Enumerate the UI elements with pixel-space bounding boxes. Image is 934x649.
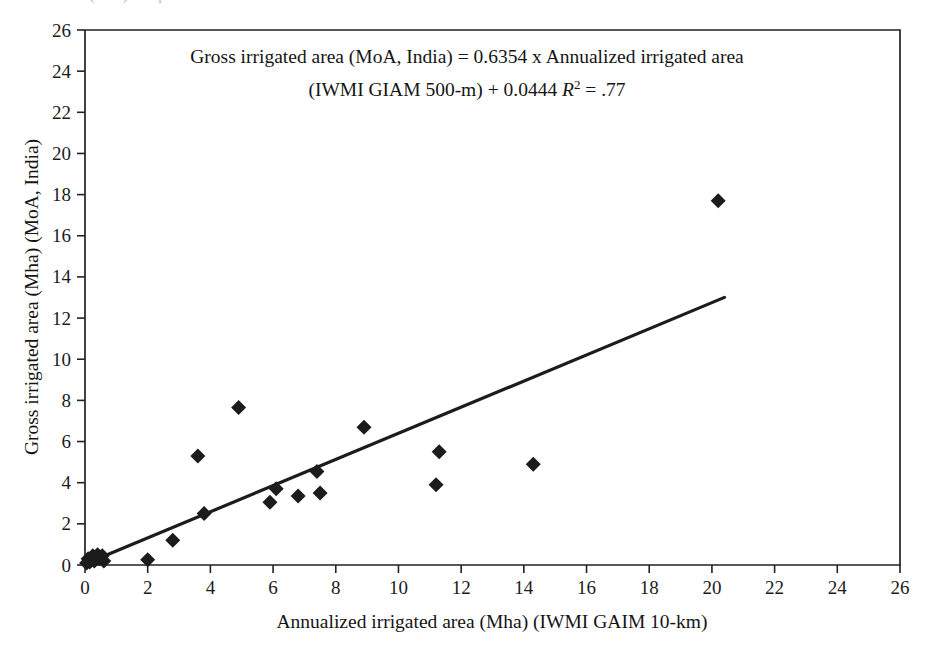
x-tick-label: 0 (80, 577, 90, 598)
data-point-marker (711, 193, 726, 208)
x-tick-label: 20 (702, 577, 721, 598)
x-axis-title: Annualized irrigated area (Mha) (IWMI GA… (277, 611, 708, 633)
x-tick-label: 22 (765, 577, 784, 598)
data-point-marker (356, 420, 371, 435)
y-axis-title: Gross irrigated area (Mha) (MoA, India) (21, 139, 43, 455)
y-axis-ticks: 02468101214161820222426 (52, 20, 85, 576)
plot-frame (85, 30, 900, 565)
y-tick-label: 8 (62, 390, 72, 411)
y-tick-label: 4 (62, 472, 72, 493)
data-points (79, 193, 726, 570)
equation-line-2-pre: (IWMI GIAM 500-m) + 0.0444 (308, 79, 562, 101)
equation-line-2: (IWMI GIAM 500-m) + 0.0444 R2 = .77 (308, 77, 625, 102)
x-tick-label: 6 (268, 577, 278, 598)
x-axis-ticks: 02468101214161820222426 (80, 565, 909, 598)
y-tick-label: 16 (52, 225, 71, 246)
x-tick-label: 14 (514, 577, 534, 598)
data-point-marker (231, 400, 246, 415)
x-tick-label: 8 (331, 577, 341, 598)
x-tick-label: 4 (206, 577, 216, 598)
equation-line-2-post: = .77 (580, 79, 625, 100)
data-point-marker (313, 485, 328, 500)
data-point-marker (429, 477, 444, 492)
data-point-marker (190, 448, 205, 463)
y-tick-label: 24 (52, 61, 72, 82)
x-tick-label: 18 (640, 577, 659, 598)
equation-r-symbol: R (561, 79, 574, 100)
x-tick-label: 2 (143, 577, 153, 598)
equation-line-1: Gross irrigated area (MoA, India) = 0.63… (190, 46, 744, 68)
x-tick-label: 26 (891, 577, 910, 598)
data-point-marker (526, 457, 541, 472)
data-point-marker (262, 495, 277, 510)
data-point-marker (291, 489, 306, 504)
trend-line (85, 297, 724, 564)
x-tick-label: 24 (828, 577, 848, 598)
regression-line (85, 297, 724, 564)
x-tick-label: 10 (389, 577, 408, 598)
x-tick-label: 16 (577, 577, 596, 598)
chart-canvas: Gross irrigated area (MoA, India) = 0.63… (0, 0, 934, 649)
y-tick-label: 18 (52, 184, 71, 205)
y-tick-label: 10 (52, 349, 71, 370)
y-tick-label: 26 (52, 20, 71, 41)
y-tick-label: 20 (52, 143, 71, 164)
equation-annotation: Gross irrigated area (MoA, India) = 0.63… (190, 46, 744, 101)
data-point-marker (165, 533, 180, 548)
y-tick-label: 12 (52, 308, 71, 329)
data-point-marker (197, 506, 212, 521)
y-tick-label: 0 (62, 555, 72, 576)
y-tick-label: 6 (62, 431, 72, 452)
y-tick-label: 14 (52, 266, 72, 287)
scatter-plot-figure: ated area (Mha) comparison Gross irrigat… (0, 0, 934, 649)
x-tick-label: 12 (452, 577, 471, 598)
data-point-marker (432, 444, 447, 459)
y-tick-label: 22 (52, 102, 71, 123)
y-tick-label: 2 (62, 513, 72, 534)
